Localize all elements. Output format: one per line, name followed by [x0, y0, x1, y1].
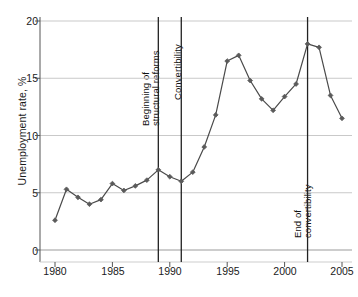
data-point-1994 — [213, 112, 218, 117]
data-point-1996 — [236, 53, 241, 58]
data-point-2004 — [328, 93, 333, 98]
plot-area — [0, 0, 358, 297]
data-point-1993 — [202, 145, 207, 150]
data-point-2003 — [317, 45, 322, 50]
data-point-2005 — [340, 116, 345, 121]
data-point-1995 — [225, 59, 230, 64]
data-point-1980 — [53, 218, 58, 223]
data-point-2002 — [305, 42, 310, 47]
data-point-1987 — [133, 183, 138, 188]
unemployment-line-chart: Unemployment rate, % 20 15 10 5 0 1980 1… — [0, 0, 358, 297]
series-line-unemployment — [55, 44, 342, 220]
